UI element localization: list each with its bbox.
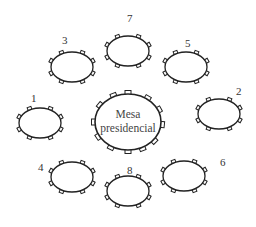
center-label-line1: Mesa xyxy=(93,108,163,122)
table-number-1: 1 xyxy=(31,93,37,104)
table-top xyxy=(107,36,149,66)
guest-table-4 xyxy=(49,160,95,193)
table-number-7: 7 xyxy=(127,13,133,24)
table-number-2: 2 xyxy=(236,86,242,97)
guest-table-5 xyxy=(163,50,209,83)
guest-table-2 xyxy=(196,97,242,130)
table-top xyxy=(165,52,207,82)
table-number-3: 3 xyxy=(62,35,68,46)
table-top xyxy=(19,108,61,138)
table-number-5: 5 xyxy=(185,38,191,49)
table-number-6: 6 xyxy=(220,157,226,168)
center-table-label: Mesa presidencial xyxy=(93,108,163,136)
table-top xyxy=(198,99,240,129)
guest-table-6 xyxy=(161,159,207,192)
table-top xyxy=(51,52,93,82)
guest-table-3 xyxy=(49,50,95,83)
table-number-8: 8 xyxy=(127,165,133,176)
table-top xyxy=(163,161,205,191)
guest-table-7 xyxy=(105,34,151,67)
guest-table-1 xyxy=(17,106,63,139)
table-top xyxy=(107,176,149,206)
center-label-line2: presidencial xyxy=(93,122,163,136)
table-number-4: 4 xyxy=(38,162,44,173)
guest-table-8 xyxy=(105,174,151,207)
table-top xyxy=(51,162,93,192)
